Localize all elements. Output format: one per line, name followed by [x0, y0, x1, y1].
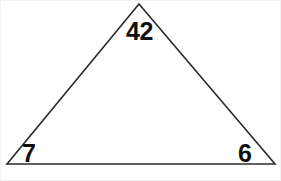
apex-angle-label: 42 — [126, 19, 153, 44]
bottom-left-angle-label: 7 — [22, 141, 36, 166]
bottom-right-angle-label: 6 — [238, 141, 252, 166]
figure-canvas: 42 7 6 — [0, 0, 281, 181]
